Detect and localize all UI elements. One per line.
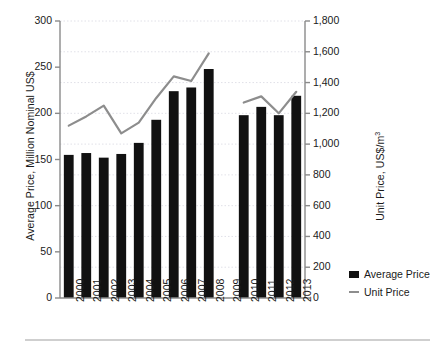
y-axis-right-tick-label: 1,600 <box>313 45 353 57</box>
x-axis-tick-label: 2004 <box>144 279 156 302</box>
y-axis-right-tick-label: 200 <box>313 260 353 272</box>
x-axis-tick-label: 2008 <box>214 279 226 302</box>
x-axis-tick-label: 2007 <box>196 279 208 302</box>
x-axis-tick-label: 2011 <box>266 279 278 302</box>
y-axis-left-tick-label: 200 <box>18 106 52 118</box>
x-axis-tick-label: 2010 <box>249 279 261 302</box>
x-axis-tick-label: 2003 <box>126 279 138 302</box>
y-axis-right-title: Unit Price, US$/m3 <box>374 96 387 256</box>
chart-legend: Average Price Unit Price <box>349 268 430 304</box>
x-axis-tick-label: 2009 <box>231 279 243 302</box>
y-axis-right-tick-label: 400 <box>313 229 353 241</box>
y-axis-right-tick-label: 0 <box>313 291 353 303</box>
axis-tick-marks <box>55 21 310 298</box>
y-axis-left-tick-label: 150 <box>18 153 52 165</box>
gridlines <box>60 21 305 267</box>
y-axis-right-tick-label: 800 <box>313 168 353 180</box>
x-axis-tick-label: 2006 <box>179 279 191 302</box>
y-axis-right-title-text: Unit Price, US$/m <box>374 136 386 221</box>
y-axis-left-tick-label: 0 <box>18 291 52 303</box>
y-axis-right-tick-label: 1,200 <box>313 106 353 118</box>
y-axis-right-tick-label: 1,000 <box>313 137 353 149</box>
legend-label-unit-price: Unit Price <box>364 286 410 298</box>
x-axis-tick-label: 2013 <box>301 279 313 302</box>
legend-item-unit-price: Unit Price <box>349 286 430 298</box>
x-axis-tick-label: 2002 <box>109 279 121 302</box>
y-axis-left-tick-label: 250 <box>18 60 52 72</box>
y-axis-left-tick-label: 300 <box>18 14 52 26</box>
x-axis-tick-label: 2012 <box>284 279 296 302</box>
legend-label-average-price: Average Price <box>364 268 430 280</box>
y-axis-right-tick-label: 600 <box>313 199 353 211</box>
y-axis-left-tick-label: 100 <box>18 199 52 211</box>
y-axis-left-tick-label: 50 <box>18 245 52 257</box>
legend-item-average-price: Average Price <box>349 268 430 280</box>
y-axis-right-title-superscript: 3 <box>374 132 381 136</box>
x-axis-tick-label: 2005 <box>161 279 173 302</box>
chart-figure: Average Price, Million Nominal US$ Unit … <box>0 0 447 347</box>
axis-lines <box>60 21 305 298</box>
bar-series <box>64 69 301 298</box>
x-axis-tick-label: 2000 <box>74 279 86 302</box>
x-axis-tick-label: 2001 <box>91 279 103 302</box>
legend-line-marker-icon <box>349 291 359 293</box>
y-axis-right-tick-label: 1,400 <box>313 76 353 88</box>
y-axis-right-tick-label: 1,800 <box>313 14 353 26</box>
bottom-divider <box>25 339 430 341</box>
legend-square-marker-icon <box>349 271 359 278</box>
